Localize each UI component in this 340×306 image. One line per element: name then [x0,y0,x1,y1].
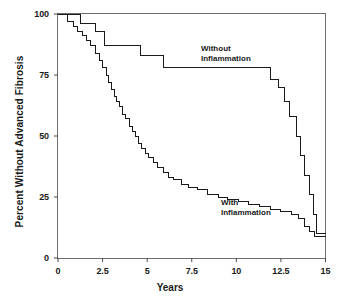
x-tick-label: 7.5 [186,266,198,276]
x-tick-label: 15 [321,266,331,276]
y-tick-label: 50 [0,131,49,141]
series-label-without-inflammation: Without Inflammation [201,44,251,64]
y-tick-label: 25 [0,192,49,202]
series-label-with-inflammation: With Inflammation [221,198,271,218]
plot-area [0,0,340,306]
x-tick-label: 2.5 [96,266,108,276]
y-tick-label: 100 [0,9,49,19]
data-series-group [58,14,326,236]
x-tick-label: 12.5 [272,266,289,276]
x-tick-label: 5 [145,266,150,276]
series-line-without-inflammation [58,14,326,234]
x-axis-title: Years [0,282,340,293]
series-line-with-inflammation [58,14,326,236]
x-tick-label: 10 [231,266,241,276]
y-axis-title: Percent Without Advanced Fibrosis [14,27,25,257]
x-tick-label: 0 [56,266,61,276]
plot-frame [58,14,326,259]
y-tick-label: 0 [0,253,49,263]
y-tick-label: 75 [0,70,49,80]
chart-figure: 0255075100 02.557.51012.515 Percent With… [0,0,340,306]
